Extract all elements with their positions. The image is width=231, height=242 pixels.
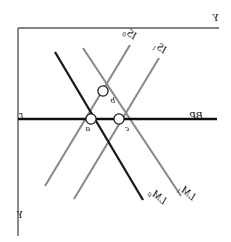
point-label-a: a — [86, 124, 91, 133]
curve-label-bp: BP — [190, 110, 203, 121]
point-marker-c — [114, 114, 124, 124]
axis-label-y-bottom: Y — [17, 210, 23, 220]
point-marker-b — [98, 86, 108, 96]
point-label-b: b — [111, 96, 116, 105]
islm-bp-figure: IS1 IS0 LM1 LM0 BP Y r Y a b c — [0, 0, 231, 242]
axis-label-r: r — [19, 110, 23, 120]
axis-label-y: Y — [213, 12, 219, 23]
figure-canvas — [0, 0, 231, 242]
point-label-c: c — [125, 124, 129, 133]
curve-lm0 — [55, 52, 143, 200]
